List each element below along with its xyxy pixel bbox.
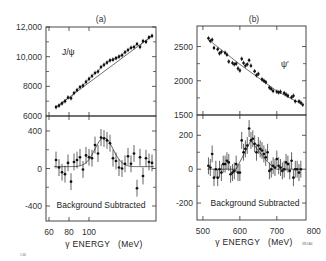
ytick-label: 0 — [37, 164, 42, 174]
data-point — [240, 58, 243, 61]
data-point — [118, 166, 121, 169]
data-point — [239, 69, 242, 72]
data-point — [288, 170, 291, 173]
data-point — [151, 162, 154, 165]
data-point — [270, 88, 273, 91]
data-point — [244, 148, 247, 151]
data-point — [100, 136, 103, 139]
data-point — [121, 167, 124, 170]
data-point — [145, 41, 148, 44]
data-point — [64, 173, 67, 176]
ytick-label: 10,000 — [16, 52, 42, 62]
data-point — [112, 157, 115, 160]
data-point — [139, 46, 142, 49]
ytick-label: 1500 — [174, 110, 193, 120]
data-point — [233, 170, 236, 173]
data-point — [88, 78, 91, 81]
data-point — [130, 46, 133, 49]
data-point — [292, 95, 295, 98]
panel-b: (b) 150020002500-2000200500600700800 ψ′ … — [174, 14, 321, 247]
data-point — [112, 58, 115, 61]
panel-a-top-annotation: J/ψ — [62, 47, 75, 57]
data-point — [94, 144, 97, 147]
data-point — [211, 38, 214, 41]
data-point — [294, 100, 297, 103]
data-point — [261, 149, 264, 152]
data-point — [220, 51, 223, 54]
data-point — [106, 139, 109, 142]
data-point — [248, 127, 251, 130]
data-point — [73, 92, 76, 95]
data-point — [213, 47, 216, 50]
ytick-label: 12,000 — [16, 22, 42, 32]
data-point — [136, 43, 139, 46]
data-point — [274, 166, 277, 169]
data-point — [58, 166, 61, 169]
data-point — [55, 106, 58, 109]
data-point — [296, 168, 299, 171]
data-point — [300, 168, 303, 171]
data-point — [226, 53, 229, 56]
ytick-label: 2000 — [174, 76, 193, 86]
data-point — [292, 176, 295, 179]
data-point — [270, 168, 273, 171]
panel-b-bottom-annotation: Background Subtracted — [211, 198, 300, 208]
data-point — [211, 153, 214, 156]
data-point — [287, 163, 290, 166]
data-point — [298, 171, 301, 174]
panel-a-label: (a) — [96, 14, 107, 24]
data-point — [283, 168, 286, 171]
data-point — [124, 51, 127, 54]
data-point — [82, 168, 85, 171]
data-point — [70, 97, 73, 100]
data-point — [264, 81, 267, 84]
xtick-label: 700 — [270, 226, 284, 236]
data-point — [115, 160, 118, 163]
data-point — [151, 35, 154, 38]
data-point — [264, 156, 267, 159]
data-point — [118, 55, 121, 58]
data-point — [279, 166, 282, 169]
data-point — [136, 187, 139, 190]
footnote-left: 1-80 — [20, 253, 26, 257]
data-point — [124, 163, 127, 166]
ytick-label: 400 — [28, 126, 42, 136]
data-point — [76, 159, 79, 162]
data-point — [142, 175, 145, 178]
data-point — [216, 176, 219, 179]
ytick-label: 6000 — [23, 111, 42, 121]
data-point — [97, 70, 100, 73]
data-point — [67, 96, 70, 99]
data-point — [109, 59, 112, 62]
data-point — [97, 152, 100, 155]
data-point — [64, 100, 67, 103]
data-point — [85, 81, 88, 84]
data-point — [251, 137, 254, 140]
data-point — [235, 62, 238, 65]
data-point — [239, 171, 242, 174]
data-point — [145, 157, 148, 160]
panel-a: (a) 6000800010,00012,000-40004006080100 … — [16, 14, 156, 249]
data-point — [248, 59, 251, 62]
data-point — [79, 156, 82, 159]
xtick-label: 100 — [82, 227, 96, 237]
data-point — [215, 168, 218, 171]
data-point — [115, 57, 118, 60]
data-point — [91, 157, 94, 160]
data-point — [255, 151, 258, 154]
data-point — [235, 163, 238, 166]
data-point — [127, 155, 130, 158]
data-point — [224, 51, 227, 54]
data-point — [224, 163, 227, 166]
data-point — [121, 54, 124, 57]
data-point — [133, 152, 136, 155]
data-point — [242, 62, 245, 65]
data-point — [142, 40, 145, 43]
data-point — [148, 36, 151, 39]
data-point — [58, 104, 61, 107]
data-point — [253, 142, 256, 145]
data-point — [213, 176, 216, 179]
data-point — [250, 64, 253, 67]
panel-b-label: (b) — [249, 14, 260, 24]
panel-a-bottom-annotation: Background Subtracted — [57, 200, 146, 210]
